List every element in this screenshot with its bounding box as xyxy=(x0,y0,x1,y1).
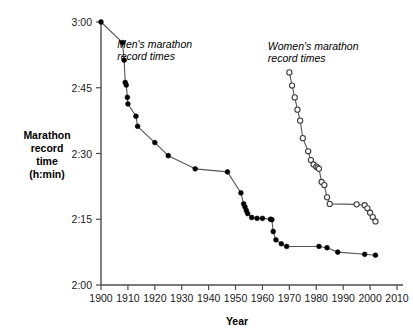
data-point: 1909.4 — 2:46 xyxy=(124,83,129,88)
y-tick-label: 2:45 xyxy=(72,82,93,94)
data-point: 1952 — 2:21 xyxy=(239,191,244,196)
x-tick-label: 1940 xyxy=(197,292,221,304)
data-point: 1935 — 2:26 xyxy=(193,166,198,171)
data-point: 1973 — 2:40 xyxy=(295,107,300,112)
data-point: 1967 — 2:09 xyxy=(279,241,284,246)
data-point: 1977 — 2:30 xyxy=(306,149,311,154)
x-tick-label: 1960 xyxy=(251,292,275,304)
data-point: 1970 — 2:48 xyxy=(287,70,292,75)
marathon-record-times-chart: 2:002:152:302:453:00 1900191019201930194… xyxy=(0,0,413,335)
y-tick-label: 2:00 xyxy=(72,279,93,291)
series-line-women xyxy=(289,72,375,221)
x-tick-label: 1980 xyxy=(305,292,329,304)
data-point: 1965 — 2:10 xyxy=(274,237,279,242)
series-annotations: Men's marathonrecord timesWomen's marath… xyxy=(117,38,359,64)
data-point: 1971 — 2:45 xyxy=(289,83,294,88)
data-point: 1925 — 2:29 xyxy=(166,153,171,158)
data-point: 1960 — 2:15 xyxy=(260,216,265,221)
data-point: 1956 — 2:15 xyxy=(249,215,254,220)
x-tick-label: 1930 xyxy=(170,292,194,304)
y-axis-title-line: Marathon xyxy=(23,129,70,141)
data-point: 2002 — 2:07 xyxy=(373,253,378,258)
x-tick-label: 1910 xyxy=(116,292,140,304)
data-point: 1981 — 2:09 xyxy=(317,244,322,249)
y-axis-title: Marathonrecordtime(h:min) xyxy=(23,129,70,180)
data-point: 1995 — 2:18 xyxy=(354,202,359,207)
x-axis-ticks: 1900191019201930194019501960197019801990… xyxy=(89,285,409,304)
data-point: 1975 — 2:33 xyxy=(300,136,305,141)
x-tick-label: 1970 xyxy=(278,292,302,304)
data-point: 1984 — 2:08 xyxy=(325,245,330,250)
data-point: 1974 — 2:37 xyxy=(298,118,303,123)
annotation-line: record times xyxy=(117,50,176,62)
y-axis-title-line: time xyxy=(36,155,58,167)
data-point: 1969 — 2:09 xyxy=(284,244,289,249)
data-point: 1958 — 2:15 xyxy=(255,216,260,221)
data-point: 2002 — 2:15 xyxy=(373,219,378,224)
y-axis-title-line: record xyxy=(31,142,64,154)
x-tick-label: 1990 xyxy=(332,292,356,304)
data-point: 1900 — 3:00 xyxy=(99,20,104,25)
data-point: 1998 — 2:07 xyxy=(362,252,367,257)
data-point: 1988 — 2:07 xyxy=(335,250,340,255)
x-tick-label: 1950 xyxy=(224,292,248,304)
data-point: 1963.5 — 2:15 xyxy=(269,217,274,222)
data-point: 1983 — 2:23 xyxy=(322,182,327,187)
y-tick-label: 2:30 xyxy=(72,148,93,160)
x-tick-label: 1920 xyxy=(143,292,167,304)
x-axis-title: Year xyxy=(226,315,248,327)
x-tick-label: 2000 xyxy=(358,292,382,304)
data-point: 1920 — 2:32 xyxy=(152,140,157,145)
y-axis-title: Marathonrecordtime(h:min) xyxy=(23,129,70,180)
data-point: 1913.6 — 2:36 xyxy=(135,124,140,129)
data-point: 1985 — 2:18 xyxy=(327,201,332,206)
chart-canvas: 2:002:152:302:453:00 1900191019201930194… xyxy=(0,0,413,335)
data-point: 1981 — 2:26 xyxy=(316,166,321,171)
y-axis-title-line: (h:min) xyxy=(29,168,65,180)
data-point: 1913 — 2:38 xyxy=(134,114,139,119)
data-point: 1947 — 2:26 xyxy=(225,170,230,175)
y-tick-label: 2:15 xyxy=(72,213,93,225)
x-tick-label: 1900 xyxy=(89,292,113,304)
x-tick-label: 2010 xyxy=(385,292,409,304)
annotation-line: Women's marathon xyxy=(268,40,359,52)
annotation-mens-label: Men's marathonrecord times xyxy=(117,38,192,62)
y-tick-label: 3:00 xyxy=(72,16,93,28)
data-point: 1972 — 2:43 xyxy=(292,95,297,100)
y-axis-ticks: 2:002:152:302:453:00 xyxy=(72,16,101,291)
data-point: 1910 — 2:41 xyxy=(126,102,131,107)
annotation-line: record times xyxy=(268,52,327,64)
data-point: 1909.8 — 2:43 xyxy=(125,95,130,100)
annotation-womens-label: Women's marathonrecord times xyxy=(268,40,359,64)
data-point: 1964 — 2:12 xyxy=(271,229,276,234)
annotation-line: Men's marathon xyxy=(117,38,192,50)
data-point: 1984 — 2:20 xyxy=(324,195,329,200)
data-point: 1954.5 — 2:16 xyxy=(245,211,250,216)
